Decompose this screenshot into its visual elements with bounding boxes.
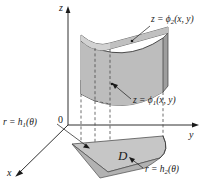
x-axis-line (19, 125, 68, 173)
outer-radius-label: r = h2(θ) (145, 164, 179, 175)
y-axis-arrowhead (192, 123, 199, 128)
region-D-label: D (117, 148, 128, 163)
h1-label-prefix: r = (3, 117, 18, 127)
origin-label: 0 (58, 114, 63, 125)
z-axis-label: z (58, 2, 63, 13)
x-axis-label: x (6, 167, 12, 178)
h2-label-prefix: r = (145, 164, 160, 174)
x-axis-arrowhead (15, 170, 23, 177)
upper-surface-marker-dot (131, 40, 134, 43)
inner-radius-label: r = h1(θ) (3, 117, 37, 128)
solid-right-face (163, 33, 168, 92)
lower-surface-marker-dot (111, 83, 114, 86)
z-axis-arrowhead (66, 6, 71, 13)
leader-h1 (57, 124, 88, 147)
svg-text:r = h2(θ): r = h2(θ) (145, 164, 179, 175)
svg-text:r = h1(θ): r = h1(θ) (3, 117, 37, 128)
lower-label-args: (x, y) (156, 95, 176, 106)
upper-label-prefix: z = (150, 14, 166, 24)
h2-label-args: (θ) (168, 164, 179, 175)
h1-label-args: (θ) (26, 117, 37, 128)
polar-solid-figure: z y x 0 z = ϕ2(x, y) z = ϕ1(x, y) r = h1… (0, 0, 205, 187)
svg-text:z = ϕ2(x, y): z = ϕ2(x, y) (150, 14, 194, 25)
upper-surface-label: z = ϕ2(x, y) (150, 14, 194, 25)
figure-canvas: z y x 0 z = ϕ2(x, y) z = ϕ1(x, y) r = h1… (0, 0, 205, 187)
lower-label-prefix: z = (132, 95, 148, 105)
upper-label-args: (x, y) (174, 14, 194, 25)
y-axis-label: y (188, 129, 194, 140)
